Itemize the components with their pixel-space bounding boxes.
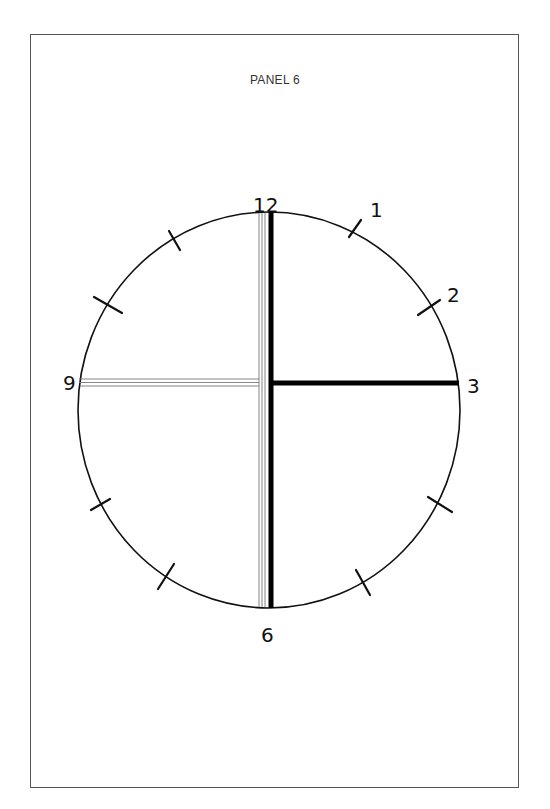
numeral-12: 12	[253, 193, 278, 217]
numeral-1: 1	[370, 198, 383, 222]
tick-7	[158, 564, 174, 589]
numeral-2: 2	[447, 283, 460, 307]
solid-hand-lines	[271, 212, 459, 608]
numeral-9: 9	[63, 371, 76, 395]
tick-10	[94, 297, 122, 313]
clock-diagram: 12 1 2 3 6 9	[0, 0, 550, 809]
hollow-hand-lines	[79, 213, 265, 607]
tick-8	[91, 499, 110, 510]
numeral-3: 3	[467, 374, 480, 398]
tick-1	[349, 220, 361, 237]
tick-5	[356, 570, 370, 595]
numeral-6: 6	[261, 623, 274, 647]
